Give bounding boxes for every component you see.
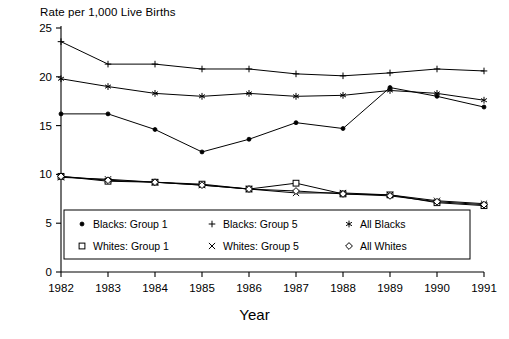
legend-label: All Blacks — [360, 218, 406, 230]
y-tick-label: 25 — [39, 22, 52, 34]
series-3 — [58, 75, 487, 103]
marker-filled-circle — [247, 137, 251, 141]
marker-open-square — [79, 243, 85, 249]
legend-label: All Whites — [360, 240, 407, 252]
legend-label: Whites: Group 5 — [223, 240, 299, 252]
chart-container: Rate per 1,000 Live Births Year 05101520… — [0, 0, 509, 339]
series-line — [61, 42, 484, 76]
y-tick-label: 20 — [39, 71, 52, 83]
y-tick-label: 5 — [46, 217, 52, 229]
marker-open-square — [293, 180, 299, 186]
marker-filled-circle — [153, 128, 157, 132]
marker-plus — [387, 70, 394, 77]
x-tick-label: 1989 — [377, 282, 403, 294]
x-tick-label: 1982 — [48, 282, 74, 294]
marker-filled-circle — [80, 222, 84, 226]
marker-filled-circle — [59, 112, 63, 116]
line-chart-plot: 0510152025198219831984198519861987198819… — [0, 0, 509, 339]
marker-filled-circle — [294, 121, 298, 125]
series-6 — [58, 173, 488, 208]
marker-plus — [481, 68, 488, 75]
legend-label: Whites: Group 1 — [93, 240, 169, 252]
legend-label: Blacks: Group 1 — [93, 218, 168, 230]
marker-plus — [105, 61, 112, 68]
x-tick-label: 1991 — [471, 282, 497, 294]
legend-label: Blacks: Group 5 — [223, 218, 298, 230]
x-tick-label: 1990 — [424, 282, 450, 294]
series-2 — [58, 38, 488, 79]
marker-filled-circle — [482, 105, 486, 109]
marker-plus — [152, 61, 159, 68]
y-tick-label: 10 — [39, 168, 52, 180]
marker-plus — [293, 71, 300, 78]
x-tick-label: 1984 — [142, 282, 168, 294]
y-tick-label: 0 — [46, 266, 52, 278]
marker-filled-circle — [106, 112, 110, 116]
x-tick-label: 1987 — [283, 282, 309, 294]
marker-filled-circle — [200, 150, 204, 154]
legend: Blacks: Group 1Blacks: Group 5All Blacks… — [64, 210, 470, 259]
y-axis-label: Rate per 1,000 Live Births — [40, 6, 176, 18]
series-line — [61, 79, 484, 100]
x-tick-label: 1983 — [95, 282, 121, 294]
x-tick-label: 1985 — [189, 282, 215, 294]
marker-filled-circle — [341, 127, 345, 131]
marker-plus — [246, 66, 253, 73]
y-tick-label: 15 — [39, 120, 52, 132]
x-tick-label: 1988 — [330, 282, 356, 294]
x-tick-label: 1986 — [236, 282, 262, 294]
marker-plus — [199, 66, 206, 73]
x-axis-label: Year — [0, 306, 509, 323]
series-1 — [59, 86, 486, 154]
marker-plus — [340, 73, 347, 80]
marker-plus — [58, 38, 65, 45]
marker-plus — [434, 66, 441, 73]
series-line — [61, 88, 484, 152]
